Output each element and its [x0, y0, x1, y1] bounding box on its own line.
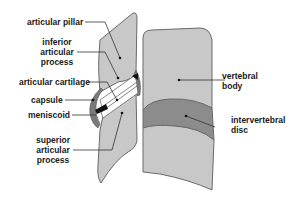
label-articular-pillar: articular pillar [27, 17, 83, 27]
vertebral-body-shape [143, 28, 212, 110]
label-superior-articular-process: superior articular process [33, 135, 73, 165]
label-superior-line3: process [33, 155, 73, 165]
label-inferior-articular-process: inferior articular process [37, 37, 77, 67]
label-articular-cartilage: articular cartilage [19, 77, 90, 87]
label-inferior-line3: process [37, 57, 77, 67]
label-disc-line1: intervertebral [231, 115, 285, 125]
label-superior-line2: articular [33, 145, 73, 155]
label-inferior-line1: inferior [37, 37, 77, 47]
label-capsule: capsule [31, 95, 63, 105]
label-vertebral-body: vertebral body [222, 71, 258, 91]
label-disc-line2: disc [231, 125, 285, 135]
label-meniscoid: meniscoid [28, 110, 70, 120]
label-vertebral-line2: body [222, 81, 258, 91]
label-superior-line1: superior [33, 135, 73, 145]
label-vertebral-line1: vertebral [222, 71, 258, 81]
label-intervertebral-disc: intervertebral disc [231, 115, 285, 135]
lower-vertebral-body-shape [143, 125, 214, 190]
label-inferior-line2: articular [37, 47, 77, 57]
